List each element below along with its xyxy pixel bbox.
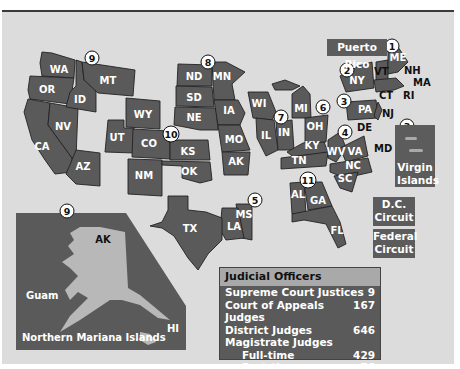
dc-circuit-box: D.C. Circuit <box>373 197 415 226</box>
federal-circuit-box: Federal Circuit <box>373 229 415 258</box>
label-guam: Guam <box>26 290 59 301</box>
label-mi: MI <box>294 103 308 114</box>
circuit-7: 7 <box>278 112 285 123</box>
label-az: AZ <box>76 161 91 172</box>
label-tn: TN <box>291 155 306 166</box>
label-mo: MO <box>225 134 243 145</box>
virgin-islands-box: Virgin Islands <box>395 125 435 187</box>
label-wy: WY <box>134 109 153 120</box>
label-ks: KS <box>181 146 196 157</box>
puerto-rico-box: Puerto Rico <box>327 39 387 56</box>
judicial-officers-title: Judicial Officers <box>220 268 380 286</box>
label-wa: WA <box>50 64 69 75</box>
label-nd: ND <box>186 71 203 82</box>
label-pa: PA <box>358 104 372 115</box>
label-nj: NJ <box>382 108 394 119</box>
circuit-4: 4 <box>342 127 349 138</box>
label-in: IN <box>278 127 290 138</box>
label-oh: OH <box>307 121 324 132</box>
circuit-9-pacific: 9 <box>64 206 71 217</box>
virgin-islands-shapes <box>395 125 435 161</box>
state-mi-up <box>272 80 300 90</box>
row-part-time: Part-time76 <box>220 361 380 369</box>
virgin-islands-label: Virgin Islands <box>395 161 435 187</box>
label-ct: CT <box>379 90 393 101</box>
label-ky: KY <box>305 140 321 151</box>
label-ny: NY <box>349 75 365 86</box>
circuit-3: 3 <box>341 96 348 107</box>
label-ga: GA <box>310 195 326 206</box>
label-id: ID <box>74 94 86 105</box>
label-ms: MS <box>235 209 252 220</box>
label-ut: UT <box>110 132 125 143</box>
label-mt: MT <box>100 75 117 86</box>
label-fl: FL <box>330 225 344 236</box>
label-me: ME <box>390 52 407 63</box>
circuit-9: 9 <box>89 53 96 64</box>
label-ne: NE <box>186 112 201 123</box>
label-al: AL <box>291 189 306 200</box>
label-or: OR <box>39 84 56 95</box>
label-de: DE <box>357 122 372 133</box>
label-wv: WV <box>327 146 346 157</box>
label-ri: RI <box>403 90 414 101</box>
label-il: IL <box>261 130 272 141</box>
row-full-time: Full-time429 <box>220 349 380 362</box>
label-ok: OK <box>181 166 199 177</box>
circuit-11: 11 <box>301 175 314 186</box>
row-magistrate-judges: Magistrate Judges <box>220 336 380 349</box>
label-sd: SD <box>186 92 202 103</box>
circuit-5: 5 <box>252 195 259 206</box>
label-la: LA <box>227 221 241 232</box>
label-sc: SC <box>338 173 353 184</box>
circuit-1: 1 <box>389 41 396 52</box>
label-va: VA <box>348 146 363 157</box>
label-ma: MA <box>413 77 431 88</box>
label-ak: AK <box>228 156 245 167</box>
label-nc: NC <box>345 160 361 171</box>
circuit-6: 6 <box>320 102 327 113</box>
label-nv: NV <box>55 121 71 132</box>
judicial-officers-panel: Judicial Officers Supreme Court Justices… <box>219 267 381 360</box>
label-northern-mariana: Northern Mariana Islands <box>22 332 166 343</box>
label-mn: MN <box>213 71 231 82</box>
circuit-10: 10 <box>164 129 178 140</box>
label-nh: NH <box>404 65 421 76</box>
row-court-of-appeals: Court of Appeals Judges167 <box>220 299 380 324</box>
label-md: MD <box>374 143 392 154</box>
label-nm: NM <box>135 170 153 181</box>
label-ia: IA <box>223 105 235 116</box>
label-vt: VT <box>374 66 389 77</box>
label-co: CO <box>141 138 157 149</box>
label-ca: CA <box>34 141 49 152</box>
circuit-8: 8 <box>205 57 212 68</box>
label-wi: WI <box>252 98 267 109</box>
label-hawaii: HI <box>167 323 179 334</box>
label-alaska: AK <box>95 234 112 245</box>
row-district-judges: District Judges646 <box>220 324 380 337</box>
row-supreme-court: Supreme Court Justices9 <box>220 286 380 299</box>
label-tx: TX <box>183 223 198 234</box>
